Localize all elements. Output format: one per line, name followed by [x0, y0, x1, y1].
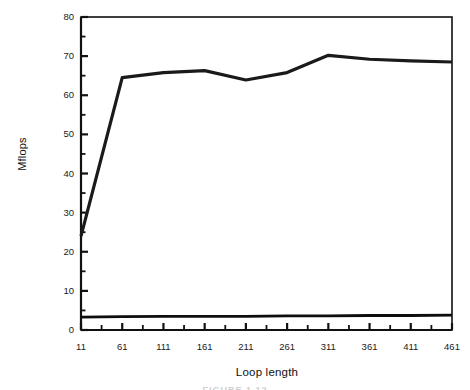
figure-chart: Mflops 01020304050607080 116111116121126…	[0, 0, 470, 390]
data-series	[81, 55, 452, 317]
axis-frame	[81, 17, 452, 330]
x-axis-title: Loop length	[81, 366, 453, 378]
x-tick-label: 261	[267, 342, 307, 352]
x-tick-label: 461	[432, 342, 470, 352]
x-axis-tick-labels: 1161111161211261311361411461	[0, 342, 470, 358]
x-tick-label: 111	[143, 342, 183, 352]
x-tick-label: 361	[350, 342, 390, 352]
x-tick-label: 161	[185, 342, 225, 352]
x-tick-label: 311	[308, 342, 348, 352]
caption-remnant: FIGURE 1.12	[0, 381, 470, 390]
axis-ticks	[81, 17, 452, 330]
series-upper-curve	[81, 55, 452, 236]
x-tick-label: 11	[61, 342, 101, 352]
x-tick-label: 411	[391, 342, 431, 352]
x-tick-label: 211	[226, 342, 266, 352]
plot-area	[0, 0, 470, 390]
x-tick-label: 61	[102, 342, 142, 352]
series-lower-curve	[81, 315, 452, 317]
